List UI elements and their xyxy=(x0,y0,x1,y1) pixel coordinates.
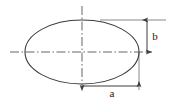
diagram-canvas: b a xyxy=(0,0,169,103)
ellipse-dimension-diagram: b a xyxy=(0,0,169,103)
semi-major-axis-label: a xyxy=(110,87,115,99)
semi-minor-axis-label: b xyxy=(152,30,158,42)
